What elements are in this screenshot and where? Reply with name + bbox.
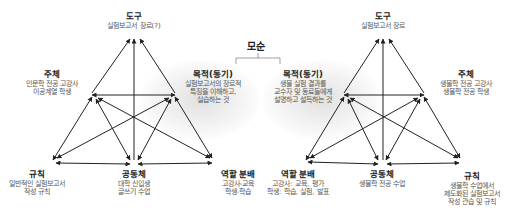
left-object-desc-3: 실습하는 것	[168, 96, 258, 104]
right-tool-desc: 실험보고서 장르	[343, 22, 423, 30]
right-division-desc-1: 고강사: 교육, 평가	[260, 180, 336, 188]
left-subject-title: 주체	[12, 70, 92, 80]
right-object-desc-2: 교수자 및 동료들에게	[258, 88, 348, 96]
right-object-node: 목적(동기) 생물 실험 결과를 교수자 및 동료들에게 설명하고 설득하는 것	[258, 70, 348, 104]
right-tool-node: 도구 실험보고서 장르	[343, 12, 423, 30]
left-community-desc-1: 대학 신입생	[104, 180, 164, 188]
right-subject-node: 주체 생물학 전공 고강사 생물학 전공 학생	[424, 70, 508, 96]
conflict-label: 모순	[247, 38, 265, 53]
right-community-desc-1: 생물학 전공 수업	[350, 180, 414, 188]
right-community-node: 공동체 생물학 전공 수업	[350, 170, 414, 188]
right-subject-desc-1: 생물학 전공 고강사	[424, 80, 508, 88]
left-rules-node: 규칙 일반적인 실험보고서 작성 규칙	[2, 170, 72, 196]
left-subject-node: 주체 인문학 전공 고강사 이공계열 학생	[12, 70, 92, 96]
right-division-node: 역할 분배 고강사: 교육, 평가 학생: 학습, 실험, 발표	[260, 170, 336, 196]
left-community-node: 공동체 대학 신입생 글쓰기 수업	[104, 170, 164, 196]
left-division-desc-1: 고강사-교육	[210, 180, 266, 188]
right-tool-title: 도구	[343, 12, 423, 22]
right-rules-title: 규칙	[430, 172, 514, 182]
left-object-desc-2: 특징을 이해하고,	[168, 88, 258, 96]
right-object-title: 목적(동기)	[258, 70, 348, 80]
left-object-node: 목적(동기) 실험보고서의 장르적 특징을 이해하고, 실습하는 것	[168, 70, 258, 104]
conflict-bracket	[236, 53, 280, 64]
left-object-desc-1: 실험보고서의 장르적	[168, 80, 258, 88]
right-rules-desc-3: 작성 관습 및 규칙	[430, 198, 514, 206]
left-subject-desc-1: 인문학 전공 고강사	[12, 80, 92, 88]
right-division-desc-2: 학생: 학습, 실험, 발표	[260, 188, 336, 196]
right-community-title: 공동체	[350, 170, 414, 180]
left-rules-desc-1: 일반적인 실험보고서	[2, 180, 72, 188]
left-object-title: 목적(동기)	[168, 70, 258, 80]
left-rules-title: 규칙	[2, 170, 72, 180]
right-rules-desc-1: 생물학 수업에서	[430, 182, 514, 190]
left-division-desc-2: 학생-학습	[210, 188, 266, 196]
left-tool-title: 도구	[94, 12, 174, 22]
right-object-desc-1: 생물 실험 결과를	[258, 80, 348, 88]
left-community-desc-2: 글쓰기 수업	[104, 188, 164, 196]
left-tool-desc: 실험보고서 장르(?)	[94, 22, 174, 30]
left-rules-desc-2: 작성 규칙	[2, 188, 72, 196]
right-object-desc-3: 설명하고 설득하는 것	[258, 96, 348, 104]
right-rules-desc-2: 제도화된 실험보고서	[430, 190, 514, 198]
right-subject-title: 주체	[424, 70, 508, 80]
left-division-title: 역할 분배	[210, 170, 266, 180]
left-division-node: 역할 분배 고강사-교육 학생-학습	[210, 170, 266, 196]
right-subject-desc-2: 생물학 전공 학생	[424, 88, 508, 96]
left-tool-node: 도구 실험보고서 장르(?)	[94, 12, 174, 30]
right-rules-node: 규칙 생물학 수업에서 제도화된 실험보고서 작성 관습 및 규칙	[430, 172, 514, 206]
right-division-title: 역할 분배	[260, 170, 336, 180]
left-subject-desc-2: 이공계열 학생	[12, 88, 92, 96]
left-community-title: 공동체	[104, 170, 164, 180]
